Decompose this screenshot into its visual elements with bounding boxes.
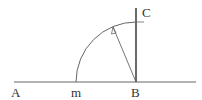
quarter-arc xyxy=(76,22,136,82)
geometry-diagram: A m B C xyxy=(0,0,202,100)
label-A: A xyxy=(11,85,21,100)
label-B: B xyxy=(131,85,140,100)
arrowhead-icon xyxy=(112,27,117,34)
radius-line xyxy=(113,27,136,82)
label-C: C xyxy=(142,5,151,20)
label-m: m xyxy=(71,85,81,100)
